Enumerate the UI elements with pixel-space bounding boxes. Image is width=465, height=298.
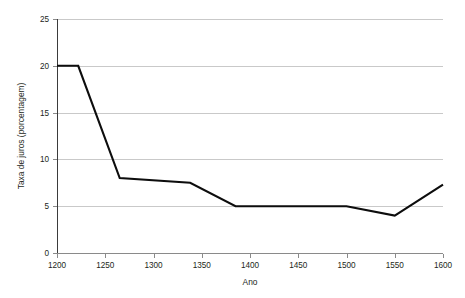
y-tick-label-15: 15 [40, 109, 50, 118]
x-tick-label-1350: 1350 [193, 261, 212, 270]
line-chart: 0510152025 12001250130013501400145015001… [0, 0, 465, 298]
x-tick-label-1500: 1500 [337, 261, 356, 270]
y-axis-group [53, 19, 58, 254]
x-tick-label-1400: 1400 [241, 261, 260, 270]
x-tick-label-1550: 1550 [386, 261, 405, 270]
x-tick-label-1300: 1300 [144, 261, 163, 270]
x-axis-group [57, 254, 444, 258]
y-axis-title: Taxa de juros (porcentagem) [16, 82, 26, 189]
series-group [57, 66, 443, 216]
y-tick-label-10: 10 [40, 155, 50, 164]
chart-figure: 0510152025 12001250130013501400145015001… [0, 0, 465, 298]
y-tick-label-0: 0 [44, 249, 49, 258]
gridlines-group [57, 20, 443, 207]
y-tick-label-20: 20 [40, 62, 50, 71]
x-tick-label-1200: 1200 [48, 261, 67, 270]
x-tick-labels-group: 120012501300135014001450150015501600 [48, 261, 453, 270]
x-tick-label-1250: 1250 [96, 261, 115, 270]
x-tick-label-1450: 1450 [289, 261, 308, 270]
x-tick-label-1600: 1600 [434, 261, 453, 270]
y-tick-label-25: 25 [40, 15, 50, 24]
y-tick-labels-group: 0510152025 [40, 15, 50, 258]
series-line-0 [57, 66, 443, 216]
y-tick-label-5: 5 [44, 202, 49, 211]
x-axis-title: Ano [243, 277, 258, 287]
